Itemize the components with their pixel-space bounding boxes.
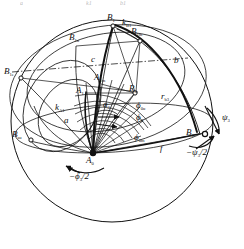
label-curve-f: f [160,143,164,153]
label-angle-phi3-half-base: −ϕ [69,171,80,181]
node-B1 [111,24,115,28]
arrowhead-a3b [96,124,117,127]
node-B1e [19,76,23,80]
label-point-B1u-sub: 1u [75,38,80,43]
label-point-B1su-sub: su [18,135,23,140]
label-angle-psi3-sub: 3 [228,118,231,123]
label-curve-kA1: kA1 [55,102,65,113]
label-angle-psi3-half-base: −ψ [186,147,198,157]
label-angle-phi0m-sub: 0m [139,138,145,143]
spherical-geometry-diagram: a k1 b1 B1 B1m B1u B1e Bsu B0 [0,0,244,249]
label-angle-phi0: ϕ0 [136,112,144,123]
curve-b-inner [117,29,200,134]
cut-top-labels-group: a k1 b1 [20,0,126,6]
label-curve-a-base: a [64,115,69,125]
figure-root: a k1 b1 B1 B1m B1u B1e Bsu B0 [0,0,244,249]
label-curve-a3: a3 [103,99,111,110]
label-angle-phi3-half: −ϕ3/2 [69,171,90,182]
label-curve-rb3: rb3 [161,91,170,102]
label-angle-phi3-half-suffix: /2 [81,171,90,181]
label-point-A1-sub: 1 [82,91,85,96]
cut-label-b1: b1 [120,0,126,6]
label-curve-kA1-sub: A1 [59,108,65,113]
label-point-B1m: B1m [131,26,143,37]
label-curve-c: c [91,54,95,64]
cut-label-k1: k1 [86,0,92,6]
great-circle-ellipse-upper [18,18,194,145]
label-point-B1e-sub: 1e [10,72,14,77]
label-curve-kB1-sub: B1 [126,23,132,28]
label-angle-phi0m: ϕ0m [134,132,145,143]
label-angle-psi3: ψ3 [222,112,231,123]
label-point-A0-sub: 0 [92,161,95,166]
label-point-B1su: Bsu [12,129,22,140]
label-point-A1m-sub: 1m [100,78,106,83]
outer-sphere-circle [11,20,213,222]
label-point-B0: B0 [186,127,195,138]
label-curve-b-base: b [174,55,179,65]
node-B1su [29,138,33,142]
sphere-boundary-group [11,20,213,222]
label-point-B1e: B1e [4,66,14,77]
meridian-left-loop [34,106,93,153]
phi-arc-2 [84,128,124,142]
label-curve-a: a [64,115,69,125]
label-point-A1: A1 [75,85,85,96]
label-curve-c-base: c [91,54,95,64]
label-curve-rb3-sub: b3 [165,97,170,102]
axis-rb3-group [12,58,188,72]
node-B0 [202,131,207,136]
label-curve-b: b [174,55,179,65]
label-angle-psi3-half: −ψ3/2 [186,147,207,158]
cut-label-a: a [20,0,23,6]
label-point-B1u: B1u [69,32,80,43]
axis-rb3-line [12,58,188,72]
label-angle-phi0u-sub: 0u [141,106,146,111]
label-angle-psi3-half-suffix: /2 [199,147,208,157]
label-point-B1m-sub: 1m [137,32,143,37]
label-point-A0: A0 [85,155,95,166]
node-B1m [138,39,142,43]
label-curve-f-base: f [160,143,164,153]
label-point-R3: R3 [128,83,138,94]
label-angle-phi0u: ϕ0u [136,100,146,111]
label-curve-kB1: kB1 [122,17,132,28]
label-point-B1: B1 [107,12,116,23]
